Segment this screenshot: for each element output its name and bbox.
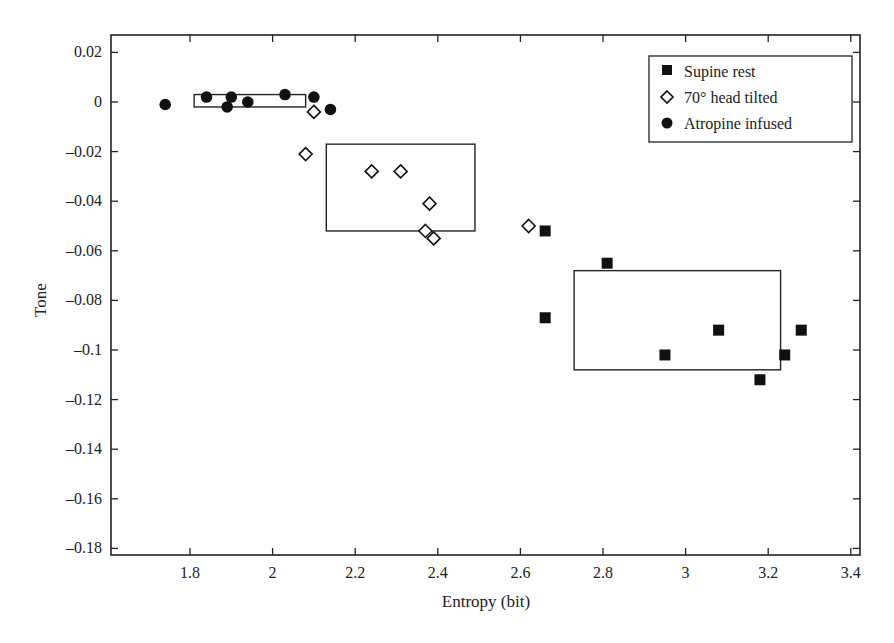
diamond-marker	[394, 165, 407, 178]
circle-marker	[201, 91, 213, 103]
y-tick-label: –0.02	[65, 143, 102, 160]
y-tick-label: 0.02	[74, 43, 102, 60]
x-tick-label: 2.2	[345, 564, 365, 581]
circle-marker	[221, 101, 233, 113]
legend: Supine rest 70° head tilted Atropine inf…	[649, 56, 852, 142]
y-tick-label: –0.16	[65, 490, 102, 507]
diamond-marker	[365, 165, 378, 178]
circle-marker	[159, 99, 171, 111]
square-marker	[540, 312, 551, 323]
x-axis-label: Entropy (bit)	[442, 592, 530, 611]
y-tick-label: –0.14	[65, 440, 102, 457]
group-box	[574, 271, 781, 370]
x-tick-label: 3	[682, 564, 690, 581]
square-marker	[602, 258, 613, 269]
diamond-marker	[307, 105, 320, 118]
square-marker	[659, 349, 670, 360]
diamond-marker	[522, 220, 535, 233]
y-tick-label: –0.1	[73, 341, 102, 358]
square-marker	[754, 374, 765, 385]
y-tick-label: –0.18	[65, 539, 102, 556]
x-tick-label: 2	[269, 564, 277, 581]
x-tick-label: 3.4	[841, 564, 861, 581]
circle-marker	[308, 91, 320, 103]
diamond-marker	[423, 197, 436, 210]
y-tick-label: 0	[94, 93, 102, 110]
group-box	[326, 144, 475, 231]
square-marker	[779, 349, 790, 360]
legend-label-tilted: 70° head tilted	[684, 89, 777, 106]
circle-icon	[662, 118, 673, 129]
square-icon	[662, 65, 672, 75]
x-tick-label: 2.6	[510, 564, 530, 581]
circle-marker	[279, 89, 291, 101]
y-tick-label: –0.08	[65, 291, 102, 308]
square-marker	[713, 325, 724, 336]
square-marker	[796, 325, 807, 336]
square-marker	[540, 225, 551, 236]
x-tick-label: 2.8	[593, 564, 613, 581]
circle-marker	[242, 96, 254, 108]
y-tick-label: –0.12	[65, 391, 102, 408]
circle-marker	[325, 104, 337, 116]
legend-label-atropine: Atropine infused	[684, 115, 792, 133]
x-tick-label: 3.2	[758, 564, 778, 581]
scatter-chart: 1.822.22.42.62.833.23.4 0.020–0.02–0.04–…	[0, 0, 894, 643]
circle-marker	[226, 91, 238, 103]
y-tick-label: –0.06	[65, 242, 102, 259]
diamond-marker	[299, 148, 312, 161]
x-tick-label: 1.8	[180, 564, 200, 581]
x-tick-label: 2.4	[428, 564, 448, 581]
y-tick-label: –0.04	[65, 192, 102, 209]
y-axis-label: Tone	[31, 283, 50, 317]
legend-label-supine: Supine rest	[684, 63, 756, 81]
